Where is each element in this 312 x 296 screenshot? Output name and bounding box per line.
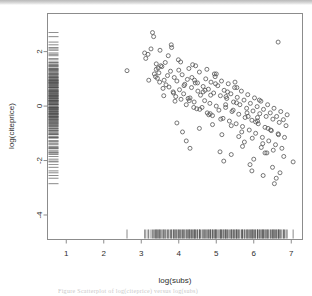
- x-axis-rug: [127, 230, 293, 239]
- scatter-point: [220, 79, 224, 83]
- scatter-point: [125, 69, 129, 73]
- scatter-point: [268, 111, 272, 115]
- scatter-point: [227, 119, 231, 123]
- x-tick-label: 2: [102, 249, 107, 258]
- scatter-point: [252, 157, 256, 161]
- plot-svg: 20-2-4 1234567 log(subs) log(citeprice): [0, 0, 312, 296]
- scatter-point: [187, 67, 191, 71]
- scatter-point: [250, 136, 254, 140]
- scatter-point: [172, 75, 176, 79]
- scatter-point: [226, 82, 230, 86]
- scatter-point: [280, 146, 284, 150]
- scatter-point: [201, 84, 205, 88]
- scatter-point: [208, 101, 212, 105]
- scatter-point: [167, 85, 171, 89]
- scatter-point: [255, 105, 259, 109]
- plot-frame: [48, 14, 303, 240]
- scatter-point: [211, 123, 215, 127]
- scatter-point: [157, 71, 161, 75]
- scatter-point: [203, 99, 207, 103]
- scatter-point: [226, 90, 230, 94]
- scatter-point: [276, 40, 280, 44]
- scatter-point: [161, 86, 165, 90]
- scatter-point: [166, 74, 170, 78]
- scatter-point: [204, 77, 208, 81]
- scatter-point: [166, 54, 170, 58]
- scatter-point: [239, 89, 243, 93]
- scatter-point: [248, 101, 252, 105]
- scatter-point: [222, 159, 226, 163]
- scatter-point: [214, 104, 218, 108]
- scatter-point: [291, 160, 295, 164]
- scatter-point: [279, 110, 283, 114]
- scatterplot-figure: 20-2-4 1234567 log(subs) log(citeprice) …: [0, 0, 312, 296]
- scatter-point: [177, 68, 181, 72]
- scatter-point: [175, 121, 179, 125]
- scatter-point: [272, 106, 276, 110]
- scatter-point: [180, 73, 184, 77]
- scatter-point: [237, 135, 241, 139]
- x-axis-tick-labels: 1234567: [64, 249, 294, 258]
- scatter-point: [197, 126, 201, 130]
- scatter-point: [274, 143, 278, 147]
- scatter-point: [217, 108, 221, 112]
- scatter-point: [266, 103, 270, 107]
- scatter-point: [272, 182, 276, 186]
- scatter-point: [184, 139, 188, 143]
- scatter-point: [278, 171, 282, 175]
- scatter-point: [175, 79, 179, 83]
- scatter-point: [162, 94, 166, 98]
- scatter-point: [154, 62, 158, 66]
- scatter-point: [271, 165, 275, 169]
- scatter-point: [185, 77, 189, 81]
- scatter-point: [274, 176, 278, 180]
- scatter-point: [242, 98, 246, 102]
- x-tick-label: 7: [289, 249, 294, 258]
- scatter-point: [229, 124, 233, 128]
- scatter-point: [205, 67, 209, 71]
- scatter-point: [233, 80, 237, 84]
- scatter-point: [281, 118, 285, 122]
- scatter-point: [241, 125, 245, 129]
- scatter-point: [283, 135, 287, 139]
- scatter-point: [261, 142, 265, 146]
- scatter-point: [178, 88, 182, 92]
- scatter-point: [152, 35, 156, 39]
- scatter-point: [158, 48, 162, 52]
- x-axis-title: log(subs): [159, 276, 192, 285]
- scatter-point: [188, 146, 192, 150]
- scatter-point: [151, 31, 155, 35]
- scatter-point: [162, 78, 166, 82]
- scatter-point: [235, 95, 239, 99]
- scatter-point: [197, 70, 201, 74]
- scatter-point: [224, 103, 228, 107]
- scatter-point: [190, 86, 194, 90]
- scatter-point: [240, 130, 244, 134]
- scatter-point: [173, 99, 177, 103]
- scatter-point: [246, 93, 250, 97]
- scatter-point: [264, 114, 268, 118]
- scatter-point: [260, 135, 264, 139]
- scatter-point: [259, 145, 263, 149]
- scatter-point: [182, 92, 186, 96]
- scatter-point: [250, 169, 254, 173]
- scatter-point: [196, 89, 200, 93]
- y-axis-title: log(citeprice): [7, 103, 16, 149]
- scatter-point: [284, 124, 288, 128]
- x-tick-label: 3: [139, 249, 144, 258]
- figure-page: 20-2-4 1234567 log(subs) log(citeprice) …: [0, 0, 312, 296]
- scatter-point: [147, 78, 151, 82]
- scatter-point: [253, 96, 257, 100]
- y-tick-label: -2: [35, 156, 44, 164]
- scatter-point: [241, 144, 245, 148]
- x-tick-label: 5: [214, 249, 219, 258]
- scatter-point: [242, 140, 246, 144]
- x-axis-ticks: [66, 240, 291, 244]
- scatter-point: [169, 69, 173, 73]
- scatter-point: [218, 94, 222, 98]
- scatter-point: [247, 128, 251, 132]
- scatter-point: [234, 122, 238, 126]
- y-tick-label: -4: [35, 211, 44, 219]
- scatter-point: [267, 139, 271, 143]
- scatter-point: [209, 80, 213, 84]
